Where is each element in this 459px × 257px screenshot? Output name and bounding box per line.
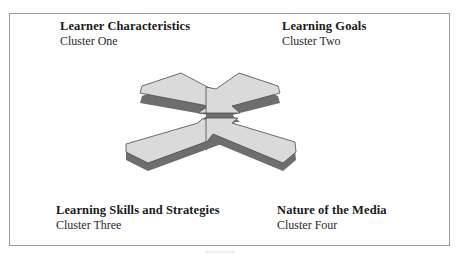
arrow-upper-right-icon [206, 73, 280, 122]
cluster-title: Learner Characteristics [60, 19, 190, 34]
cluster-subtitle: Cluster Four [277, 218, 387, 233]
cluster-two-label: Learning Goals Cluster Two [282, 19, 366, 49]
cluster-one-label: Learner Characteristics Cluster One [60, 19, 190, 49]
cluster-subtitle: Cluster Two [282, 34, 366, 49]
converging-arrows-icon [120, 72, 300, 172]
cluster-three-label: Learning Skills and Strategies Cluster T… [56, 203, 220, 233]
cluster-subtitle: Cluster One [60, 34, 190, 49]
arrow-lower-right-icon [206, 118, 296, 171]
cluster-subtitle: Cluster Three [56, 218, 220, 233]
caption-mark [205, 251, 235, 253]
cluster-title: Nature of the Media [277, 203, 387, 218]
cluster-four-label: Nature of the Media Cluster Four [277, 203, 387, 233]
cluster-title: Learning Skills and Strategies [56, 203, 220, 218]
cluster-title: Learning Goals [282, 19, 366, 34]
